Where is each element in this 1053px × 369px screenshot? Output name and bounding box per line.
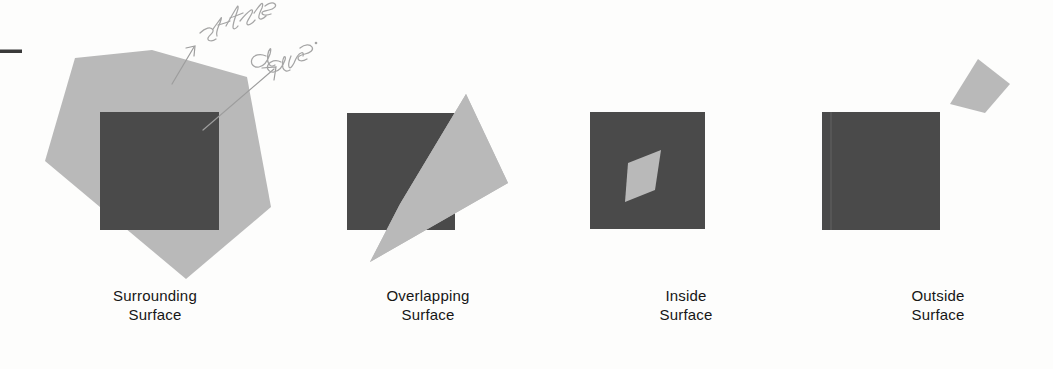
margin-dash-icon [0,50,22,54]
caption-outside-surface: Outside Surface [828,286,1048,324]
caption-surrounding-surface: Surrounding Surface [45,286,265,324]
handwriting-area [251,42,317,72]
figure-sheet: Surrounding Surface Overlapping Surface … [0,0,1053,369]
panel-surrounding [45,3,317,279]
panel-inside [590,112,705,229]
handwriting-surface [200,3,276,41]
caption-overlapping-surface: Overlapping Surface [318,286,538,324]
caption-inside-surface: Inside Surface [576,286,796,324]
dark-square [100,112,219,230]
panel-outside [822,59,1010,230]
panel-overlapping [347,94,508,262]
outside-quad [950,59,1010,113]
dark-square [822,112,940,230]
